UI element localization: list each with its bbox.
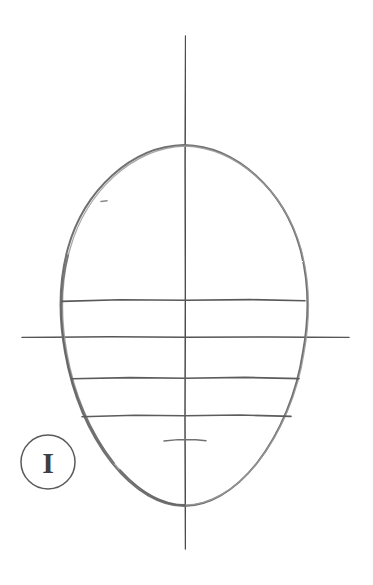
stray-pencil-dot xyxy=(101,201,107,202)
drawing-page: Head Construction Study xyxy=(0,0,373,585)
figure-label-text: I xyxy=(42,446,54,479)
vertical-axis xyxy=(185,36,186,549)
nose-line xyxy=(72,377,299,378)
horizontal-axis xyxy=(22,337,349,338)
head-construction-drawing: I xyxy=(0,0,373,585)
paper-background xyxy=(0,0,373,585)
